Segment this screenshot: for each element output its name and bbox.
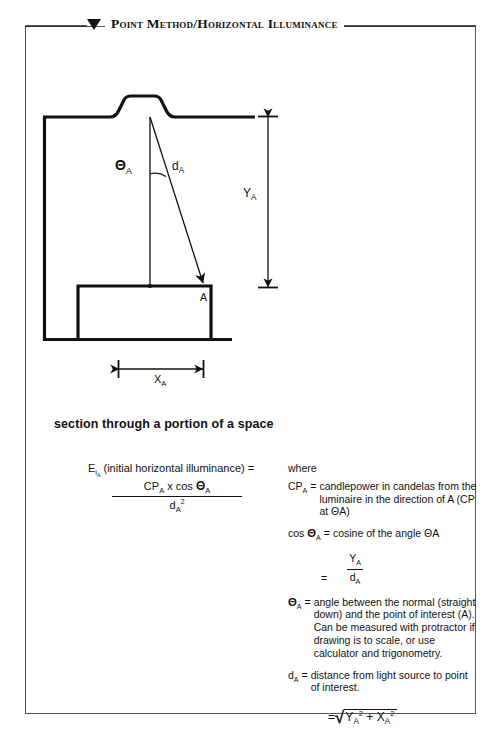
- point-a-label: A: [200, 291, 207, 303]
- cos-fraction-denominator: dA: [347, 570, 363, 587]
- cos-fraction-numerator: YA: [347, 552, 363, 570]
- definition-body: cosine of the angle ΘA: [333, 527, 478, 543]
- angle-arc: [150, 173, 166, 176]
- definition-term: CPA =: [288, 480, 319, 518]
- y-dimension-label: YA: [243, 186, 256, 202]
- sqrt-expression: =√YA2 + XA2: [328, 708, 478, 729]
- radical-icon: √: [335, 708, 344, 727]
- definition-cp: CPA = candlepower in candelas from the l…: [288, 480, 478, 518]
- definition-cos: cos ΘA = cosine of the angle ΘA: [288, 527, 478, 543]
- cos-fraction: = YA dA: [332, 552, 366, 587]
- definition-body: distance from light source to point of i…: [311, 669, 478, 695]
- radicand: YA2 + XA2: [344, 709, 397, 724]
- normal-foot-dot: [148, 284, 152, 288]
- definition-theta: ΘA = angle between the normal (straight …: [288, 596, 478, 660]
- formula-numerator: CPA x cos ΘA: [112, 479, 242, 497]
- light-ray-diagonal: [150, 117, 203, 283]
- definition-distance: dA = distance from light source to point…: [288, 669, 478, 695]
- definition-term: ΘA =: [288, 596, 314, 660]
- desk-rectangle: [78, 286, 211, 339]
- definition-body: candlepower in candelas from the luminai…: [319, 480, 478, 518]
- section-caption: section through a portion of a space: [54, 417, 274, 431]
- illustration-page: Point Method/Horizontal Illuminance: [0, 0, 503, 743]
- definition-term: cos ΘA =: [288, 527, 333, 543]
- definition-term: dA =: [288, 669, 311, 695]
- theta-label: ΘA: [115, 157, 132, 176]
- ceiling-with-luminaire: [43, 96, 255, 117]
- x-dimension-label: XA: [154, 373, 166, 388]
- formula-fraction: CPA x cos ΘA dA2: [112, 479, 242, 514]
- formula-denominator: dA2: [112, 497, 242, 514]
- definition-body: angle between the normal (straight down)…: [314, 596, 478, 660]
- formula-lead-line: EiA (initial horizontal illuminance) =: [88, 462, 254, 479]
- where-label: where: [288, 462, 478, 475]
- definitions-column: where CPA = candlepower in candelas from…: [288, 462, 478, 729]
- distance-label: dA: [172, 159, 184, 175]
- equals-sign: =: [321, 572, 327, 585]
